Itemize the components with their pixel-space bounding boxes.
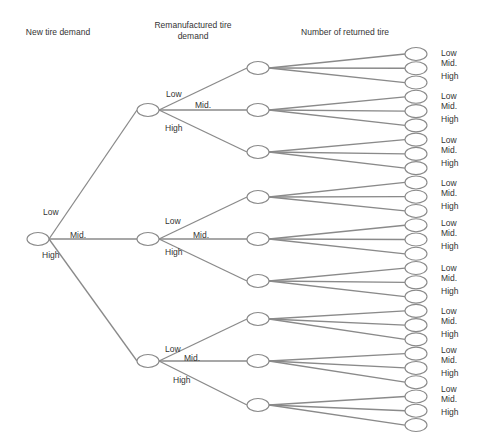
leaf-label-mid: Mid. — [441, 355, 457, 365]
remanufactured-node — [247, 399, 269, 412]
new-tire-node-mid — [137, 233, 159, 246]
leaf-label-mid: Mid. — [441, 316, 457, 326]
returned-tire-leaf-node — [405, 390, 427, 403]
returned-tire-leaf-node — [405, 147, 427, 160]
root-edge-label: High — [42, 250, 59, 260]
returned-tire-leaf-node — [405, 419, 427, 432]
leaf-label-high: High — [441, 407, 458, 417]
leaf-label-low: Low — [441, 345, 457, 355]
branch-edge — [269, 239, 405, 240]
branch-edge — [269, 182, 405, 197]
branch-edge — [269, 97, 405, 110]
leaf-label-mid: Mid. — [441, 188, 457, 198]
branch-edge — [269, 152, 405, 168]
branch-edge — [269, 54, 405, 68]
root-node — [27, 233, 49, 246]
level1-edge-label: Low — [166, 89, 182, 99]
remanufactured-node — [247, 355, 269, 368]
leaf-label-mid: Mid. — [441, 273, 457, 283]
remanufactured-node — [247, 233, 269, 246]
root-edge-label: Low — [43, 207, 59, 217]
leaf-label-low: Low — [441, 306, 457, 316]
returned-tire-leaf-node — [405, 176, 427, 189]
leaf-label-mid: Mid. — [441, 145, 457, 155]
level1-edge-label: Low — [165, 344, 181, 354]
leaf-label-mid: Mid. — [441, 228, 457, 238]
branch-edge — [49, 239, 137, 361]
returned-tire-leaf-node — [405, 90, 427, 103]
branch-edge — [49, 110, 137, 239]
branch-edge — [269, 110, 405, 125]
branch-edge — [269, 140, 405, 152]
header-number-of-returned-tire: Number of returned tire — [290, 27, 400, 38]
header-new-tire-demand: New tire demand — [8, 27, 108, 38]
branch-edge — [269, 197, 405, 211]
returned-tire-leaf-node — [405, 333, 427, 346]
leaf-label-high: High — [441, 368, 458, 378]
decision-tree — [0, 0, 477, 446]
leaf-label-mid: Mid. — [441, 101, 457, 111]
returned-tire-leaf-node — [405, 276, 427, 289]
remanufactured-node — [247, 313, 269, 326]
leaf-label-low: Low — [441, 263, 457, 273]
returned-tire-leaf-node — [405, 347, 427, 360]
branch-edge — [269, 110, 405, 111]
branch-edge — [269, 396, 405, 405]
remanufactured-node — [247, 62, 269, 75]
header-remanufactured-tire-demand: Remanufactured tire demand — [150, 20, 236, 42]
level1-edge-label: High — [165, 247, 182, 257]
branch-edge — [269, 281, 405, 297]
returned-tire-leaf-node — [405, 219, 427, 232]
branch-edge — [269, 68, 405, 83]
branch-edge — [269, 311, 405, 319]
leaf-label-high: High — [441, 114, 458, 124]
leaf-label-high: High — [441, 329, 458, 339]
level1-edge-label: High — [165, 123, 182, 133]
returned-tire-leaf-node — [405, 247, 427, 260]
returned-tire-leaf-node — [405, 404, 427, 417]
returned-tire-leaf-node — [405, 119, 427, 132]
remanufactured-node — [247, 104, 269, 117]
remanufactured-node — [247, 275, 269, 288]
branch-edge — [269, 354, 405, 361]
returned-tire-leaf-node — [405, 376, 427, 389]
leaf-label-mid: Mid. — [441, 58, 457, 68]
returned-tire-leaf-node — [405, 304, 427, 317]
branch-edge — [269, 281, 405, 282]
remanufactured-node — [247, 191, 269, 204]
returned-tire-leaf-node — [405, 190, 427, 203]
leaf-label-low: Low — [441, 218, 457, 228]
branch-edge — [269, 268, 405, 281]
leaf-label-high: High — [441, 158, 458, 168]
root-edge-label: Mid. — [70, 230, 86, 240]
leaf-label-low: Low — [441, 91, 457, 101]
leaf-label-high: High — [441, 241, 458, 251]
returned-tire-leaf-node — [405, 133, 427, 146]
remanufactured-node — [247, 146, 269, 159]
returned-tire-leaf-node — [405, 105, 427, 118]
leaf-label-mid: Mid. — [441, 394, 457, 404]
branch-edge — [269, 239, 405, 254]
leaf-label-high: High — [441, 286, 458, 296]
level1-edge-label: Mid. — [193, 230, 209, 240]
new-tire-node-low — [137, 104, 159, 117]
new-tire-node-high — [137, 355, 159, 368]
returned-tire-leaf-node — [405, 361, 427, 374]
returned-tire-leaf-node — [405, 319, 427, 332]
level1-edge-label: Mid. — [184, 353, 200, 363]
leaf-label-low: Low — [441, 384, 457, 394]
returned-tire-leaf-node — [405, 290, 427, 303]
level1-edge-label: Low — [165, 216, 181, 226]
level1-edge-label: Mid. — [195, 100, 211, 110]
returned-tire-leaf-node — [405, 262, 427, 275]
leaf-label-high: High — [441, 71, 458, 81]
branch-edge — [159, 319, 247, 361]
edges — [49, 54, 405, 425]
returned-tire-leaf-node — [405, 62, 427, 75]
returned-tire-leaf-node — [405, 48, 427, 61]
returned-tire-leaf-node — [405, 233, 427, 246]
level1-edge-label: High — [173, 375, 190, 385]
branch-edge — [269, 225, 405, 239]
leaf-label-low: Low — [441, 178, 457, 188]
branch-edge — [159, 239, 247, 281]
